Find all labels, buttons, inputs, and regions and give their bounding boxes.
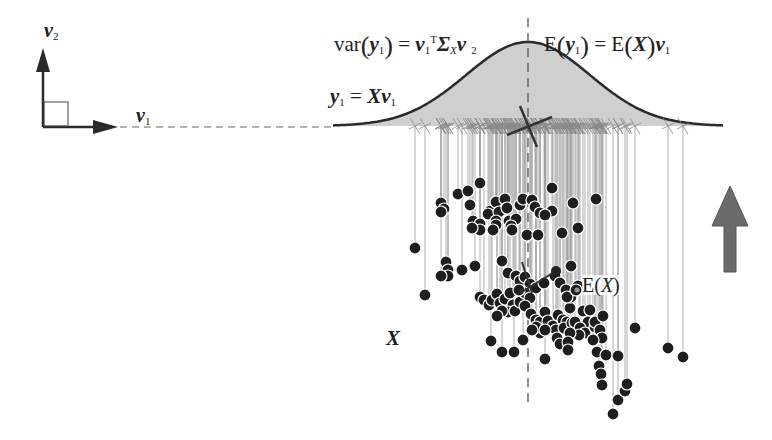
basis-vectors <box>36 48 335 134</box>
data-points <box>409 177 689 420</box>
data-matrix-label: X <box>386 328 400 349</box>
v2-arrowhead-icon <box>36 48 50 72</box>
right-angle-marker <box>44 102 68 126</box>
variance-formula: var(y1) = v1TΣXv 2 <box>334 33 477 59</box>
v1-label: v1 <box>136 105 150 127</box>
projection-direction-arrow-icon <box>712 186 748 272</box>
pca-diagram: v2 v1 var(y1) = v1TΣXv 2 E(y1) = E(X)v1 … <box>0 0 772 440</box>
diagram-canvas <box>0 0 772 440</box>
mean-formula: E(y1) = E(X)v1 <box>544 33 670 59</box>
data-mean-label: E(X) <box>582 275 620 295</box>
projection-formula: y1 = Xv1 <box>330 86 396 108</box>
projection-lines <box>415 126 683 414</box>
v1-arrowhead-icon <box>93 120 118 134</box>
v2-label: v2 <box>44 20 58 42</box>
